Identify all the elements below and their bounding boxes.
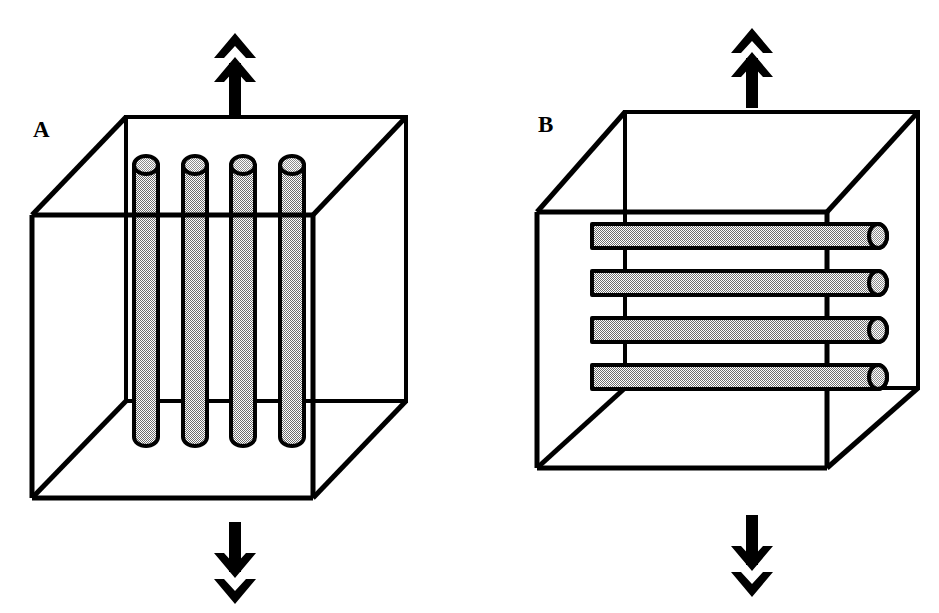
fiber-body (183, 165, 207, 446)
figure-root: A (0, 0, 939, 613)
fiber-cap (231, 156, 255, 174)
fiber (592, 224, 887, 248)
figure-canvas: A (0, 0, 939, 613)
fiber-cap (869, 365, 887, 389)
fiber-body (231, 165, 255, 446)
panel-label-b: B (538, 112, 553, 137)
fiber-cap (869, 271, 887, 295)
fiber-cap (869, 318, 887, 342)
fiber-body (592, 224, 887, 248)
fiber-cap (134, 156, 158, 174)
panel-label-a: A (33, 117, 50, 142)
fiber (280, 156, 304, 446)
fiber (134, 156, 158, 446)
fiber-body (134, 165, 158, 446)
fiber-body (280, 165, 304, 446)
fiber (231, 156, 255, 446)
fiber-cap (183, 156, 207, 174)
fiber (592, 271, 887, 295)
fiber (592, 318, 887, 342)
fiber-body (592, 318, 887, 342)
fiber-cap (869, 224, 887, 248)
fiber (183, 156, 207, 446)
fiber (592, 365, 887, 389)
fiber-body (592, 271, 887, 295)
fiber-body (592, 365, 887, 389)
fiber-cap (280, 156, 304, 174)
